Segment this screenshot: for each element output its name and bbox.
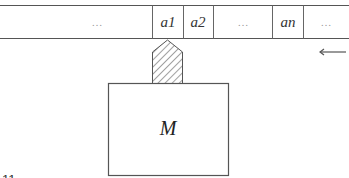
tape-cell-a1: a1 — [161, 14, 176, 30]
tape-cell-ellipsis-left: … — [92, 16, 103, 28]
left-arrow-icon — [320, 49, 346, 55]
turing-machine-diagram: … a1 a2 … an … M 11 — [0, 0, 349, 178]
tape-cell-ellipsis-right: … — [321, 16, 332, 28]
machine-label: M — [159, 117, 178, 139]
tape-cell-an: an — [281, 14, 296, 30]
tape-cell-a2: a2 — [191, 14, 207, 30]
figure-number-fragment: 11 — [2, 172, 16, 178]
tape-cell-ellipsis-middle: … — [238, 16, 249, 28]
read-write-head — [153, 40, 183, 84]
